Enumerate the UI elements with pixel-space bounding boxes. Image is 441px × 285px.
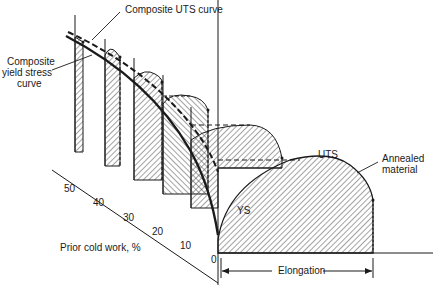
- tick-50: 50: [64, 183, 75, 194]
- label-cold-work-axis: Prior cold work, %: [60, 242, 141, 253]
- tick-10: 10: [180, 240, 191, 251]
- label-elongation: Elongation: [278, 265, 325, 276]
- label-composite-ys-3: curve: [17, 78, 41, 89]
- leader-uts: [92, 12, 120, 40]
- label-annealed-2: material: [382, 164, 418, 175]
- label-composite-uts: Composite UTS curve: [125, 4, 223, 15]
- label-annealed-1: Annealed: [382, 153, 424, 164]
- label-composite-ys-1: Composite: [7, 56, 55, 67]
- slab-40: [105, 39, 120, 166]
- label-composite-ys-2: yield stress: [2, 67, 52, 78]
- slab-30: [134, 58, 162, 180]
- leader-ys: [52, 55, 92, 70]
- slab-50: [75, 15, 83, 152]
- label-uts: UTS: [318, 149, 338, 160]
- tick-20: 20: [152, 226, 163, 237]
- tick-40: 40: [93, 197, 104, 208]
- leader-annealed: [357, 162, 378, 173]
- tick-0: 0: [211, 254, 217, 265]
- tick-30: 30: [123, 212, 134, 223]
- label-ys: YS: [237, 205, 250, 216]
